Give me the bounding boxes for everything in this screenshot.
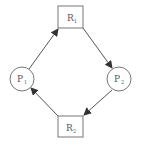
edge-r1-to-p2 [83,28,112,68]
node-p1-subscript: 1 [24,79,27,85]
node-p1-label: P [17,74,23,84]
node-r1-subscript: 1 [74,18,77,24]
node-r1: R 1 [58,6,83,28]
node-r2: R 2 [58,116,83,137]
resource-allocation-graph: R 1 P 2 R 2 P 1 [0,0,144,146]
node-p2-subscript: 2 [121,79,124,85]
node-r2-label: R [66,123,73,133]
edge-r2-to-p1 [31,88,58,116]
node-r2-subscript: 2 [73,128,76,134]
node-r1-label: R [67,13,74,23]
node-p2-label: P [114,74,120,84]
node-p1: P 1 [10,67,34,91]
edge-p2-to-r2 [84,90,112,115]
node-p2: P 2 [107,67,131,91]
edge-p1-to-r1 [29,29,58,69]
